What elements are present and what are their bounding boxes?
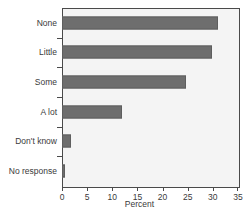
y-axis-label: None [0,8,57,38]
bar-row [62,127,238,157]
x-axis-tick [188,187,189,191]
x-axis-tick [112,187,113,191]
bar [62,76,186,89]
y-axis-labels: NoneLittleSomeA lotDon't knowNo response [0,8,57,186]
bar-chart: NoneLittleSomeA lotDon't knowNo response… [0,0,251,218]
y-axis-tick [57,156,62,157]
y-axis-label: Little [0,38,57,68]
bar-row [62,67,238,97]
bar [62,135,71,148]
y-axis-tick [57,97,62,98]
y-axis-tick [57,127,62,128]
x-axis-title-text: Percent [97,199,154,209]
x-axis-tick [237,187,238,191]
bar-row [62,97,238,127]
bar-row [62,8,238,38]
x-axis-tick [213,187,214,191]
x-axis-tick [62,187,63,191]
bar [62,105,122,118]
y-axis-label: Don't know [0,127,57,157]
y-axis-label: A lot [0,97,57,127]
bar [62,16,218,29]
bars-container [62,8,238,186]
x-axis-tick [137,187,138,191]
y-axis-label: Some [0,67,57,97]
bar [62,165,65,178]
bar [62,46,212,59]
bar-row [62,38,238,68]
x-axis-tick [87,187,88,191]
x-axis-tick [163,187,164,191]
y-axis-label: No response [0,156,57,186]
bar-row [62,156,238,186]
y-axis-tick [57,38,62,39]
y-axis-tick [57,67,62,68]
x-axis-title: Percent [0,199,251,209]
